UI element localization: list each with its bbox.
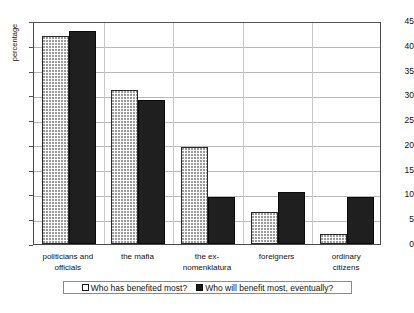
y-tick-label: 40: [386, 42, 414, 51]
y-tick-label: 10: [386, 190, 414, 199]
bar: [278, 192, 305, 244]
bar: [69, 31, 96, 244]
y-tick-label: 0: [386, 240, 414, 249]
x-category-label-line: nomenklatura: [172, 262, 242, 273]
x-category-label-line: the ex-: [172, 251, 242, 262]
legend-swatch-dark: [196, 284, 203, 291]
y-tick-label: 15: [386, 166, 414, 175]
x-category-label-line: ordinary: [311, 251, 381, 262]
x-category-label-line: officials: [33, 262, 103, 273]
group-separator: [104, 23, 105, 244]
x-category-label-line: citizens: [311, 262, 381, 273]
bar: [320, 234, 347, 244]
x-category-label: the mafia: [103, 251, 173, 262]
x-category-label: ordinarycitizens: [311, 251, 381, 273]
legend-entry: Who has benefited most?: [82, 283, 187, 293]
group-separator: [173, 23, 174, 244]
bar: [111, 90, 138, 244]
bar: [42, 36, 69, 244]
bar: [208, 197, 235, 244]
legend-label: Who has benefited most?: [91, 283, 187, 293]
bar: [251, 212, 278, 244]
y-tick-mark: [29, 245, 33, 246]
chart-legend: Who has benefited most?Who will benefit …: [63, 281, 352, 294]
x-category-label: the ex-nomenklatura: [172, 251, 242, 273]
plot-area: [33, 22, 381, 245]
y-tick-label: 20: [386, 141, 414, 150]
x-category-label: politicians andofficials: [33, 251, 103, 273]
y-axis-title: percentage: [10, 13, 19, 73]
bar: [347, 197, 374, 244]
y-tick-label: 5: [386, 215, 414, 224]
y-tick-label: 35: [386, 67, 414, 76]
y-tick-label: 45: [386, 17, 414, 26]
bar: [181, 147, 208, 244]
bar: [138, 100, 165, 244]
legend-swatch-light: [82, 284, 89, 291]
x-category-label-line: foreigners: [242, 251, 312, 262]
bar-chart: percentage 051015202530354045 politician…: [0, 0, 414, 313]
y-tick-label: 25: [386, 116, 414, 125]
group-separator: [243, 23, 244, 244]
bottom-caption: [128, 303, 408, 313]
x-category-label: foreigners: [242, 251, 312, 262]
legend-entry: Who will benefit most, eventually?: [196, 283, 333, 293]
x-category-label-line: politicians and: [33, 251, 103, 262]
group-separator: [312, 23, 313, 244]
y-tick-label: 30: [386, 91, 414, 100]
legend-label: Who will benefit most, eventually?: [205, 283, 333, 293]
x-category-label-line: the mafia: [103, 251, 173, 262]
